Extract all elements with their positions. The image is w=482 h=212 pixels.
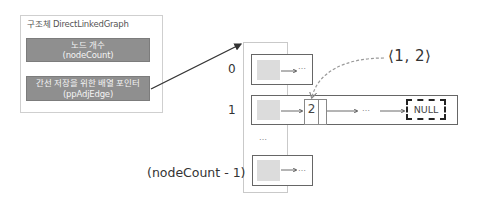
pointer-arrow bbox=[151, 44, 241, 89]
connector-lines bbox=[0, 0, 482, 212]
edge-label-pointer bbox=[312, 58, 384, 97]
